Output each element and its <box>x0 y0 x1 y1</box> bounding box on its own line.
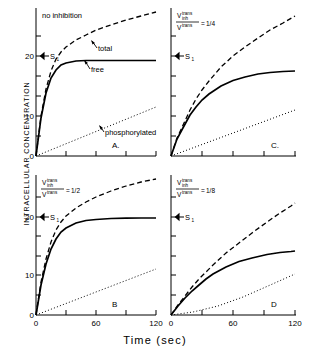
y-tick-0: 0 <box>30 152 35 161</box>
panel-b-id: B <box>112 300 117 309</box>
curve-phosphorylated-b <box>36 269 156 315</box>
ratio-sub-num: inh <box>182 183 189 188</box>
curve-free-b <box>36 218 156 315</box>
total-label: total <box>98 44 113 53</box>
s1-sub: 1 <box>192 218 195 223</box>
x-tick-120: 120 <box>149 319 163 328</box>
figure-canvas: INTRACELLULAR CONCENTRATION Time (sec) 2… <box>0 0 310 361</box>
s1-label: S <box>185 213 190 222</box>
s1-sub: 1 <box>57 218 60 223</box>
x-tick-60: 60 <box>92 319 101 328</box>
x-tick-0: 0 <box>169 319 174 328</box>
s1-marker-a: S 1 <box>41 52 60 62</box>
s1-label: S <box>50 52 55 61</box>
ratio-value-c: 1/4 <box>206 20 215 27</box>
panel-b-ratio: V trans inh V trans = 1/2 <box>41 178 80 198</box>
s1-sub: 1 <box>57 57 60 62</box>
panel-a-id: A. <box>112 141 120 150</box>
panel-c-ratio: V trans inh V trans = 1/4 <box>176 11 215 31</box>
ratio-equals: = <box>201 20 205 27</box>
ratio-value-b: 1/2 <box>71 187 80 194</box>
y-tick-10: 10 <box>25 112 34 121</box>
s1-label: S <box>185 52 190 61</box>
y-tick-20: 20 <box>25 213 34 222</box>
x-tick-0: 0 <box>34 319 39 328</box>
curve-free-a <box>36 61 156 157</box>
label-free-a: free <box>84 60 104 74</box>
y-tick-10: 10 <box>25 271 34 280</box>
ratio-sub-num: inh <box>47 183 54 188</box>
s1-sub: 1 <box>192 57 195 62</box>
x-tick-60: 60 <box>229 319 238 328</box>
panel-d-ratio: V trans inh V trans = 1/8 <box>176 178 215 198</box>
panel-c-id: C. <box>271 141 279 150</box>
panel-c: S 1 V trans inh V trans = 1/4 C. <box>163 8 301 168</box>
ratio-sup-den: trans <box>182 190 193 195</box>
panel-d-id: D <box>271 300 277 309</box>
ratio-sup-den: trans <box>182 23 193 28</box>
ratio-equals: = <box>66 187 70 194</box>
y-tick-20: 20 <box>25 52 34 61</box>
panel-b: 20 10 0 S 1 V trans inh V trans = 1/2 B <box>28 175 158 327</box>
s1-label: S <box>50 213 55 222</box>
x-axis-label: Time (sec) <box>0 334 310 346</box>
free-label: free <box>91 65 104 74</box>
ratio-value-d: 1/8 <box>206 187 215 194</box>
ratio-sup-den: trans <box>47 190 58 195</box>
s1-marker-b: S 1 <box>41 213 60 223</box>
ratio-equals: = <box>201 187 205 194</box>
s1-marker-d: S 1 <box>176 213 195 223</box>
s1-marker-c: S 1 <box>176 52 195 62</box>
x-tick-120: 120 <box>288 319 302 328</box>
curve-total-c <box>171 16 295 156</box>
panel-a: 20 10 0 S 1 no inhibition total <box>28 8 158 168</box>
ratio-sub-num: inh <box>182 16 189 21</box>
panel-d: S 1 V trans inh V trans = 1/8 D 0 60 120 <box>163 175 301 327</box>
label-total-a: total <box>91 40 113 53</box>
curve-total-b <box>36 179 156 315</box>
phosphorylated-label: phosphorylated <box>105 128 156 137</box>
panel-a-condition: no inhibition <box>42 11 82 20</box>
